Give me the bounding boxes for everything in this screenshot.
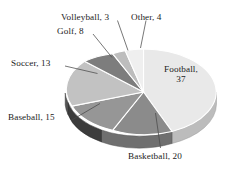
slice-label-baseball: Baseball, 15 (8, 113, 55, 123)
slice-label-volleyball: Volleyball, 3 (61, 13, 109, 23)
leader-line-volleyball (118, 21, 129, 51)
pie-chart-figure: Volleyball, 3 Other, 4 Golf, 8 Soccer, 1… (0, 0, 235, 173)
pie-chart-svg (0, 0, 235, 173)
leader-line-golf (93, 34, 112, 58)
slice-label-other: Other, 4 (131, 13, 162, 23)
pie-top-face (66, 49, 216, 135)
slice-label-football: Football, 37 (155, 64, 207, 85)
slice-label-golf: Golf, 8 (57, 27, 84, 37)
slice-label-football-line2: 37 (176, 74, 185, 84)
slice-label-basketball: Basketball, 20 (128, 152, 182, 162)
leader-line-other (141, 21, 147, 49)
slice-label-football-line1: Football, (164, 64, 198, 74)
slice-label-soccer: Soccer, 13 (11, 59, 50, 69)
